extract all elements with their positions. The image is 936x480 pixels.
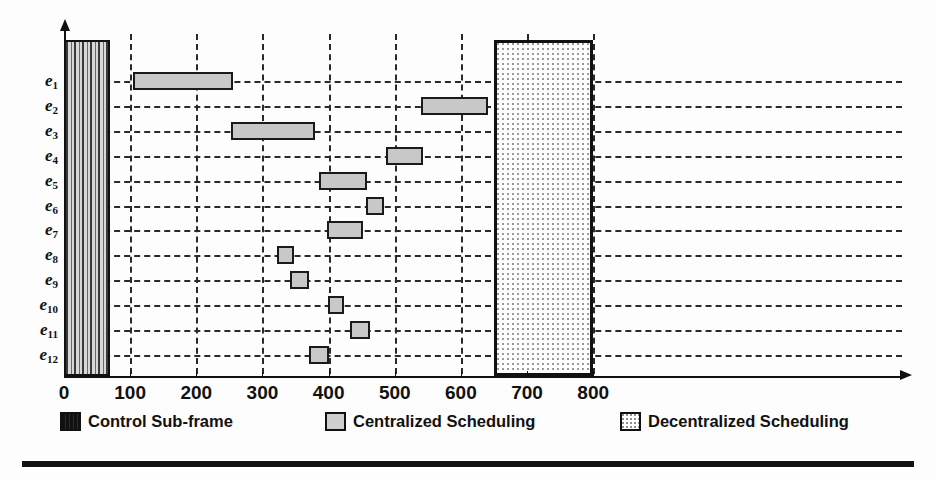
x-axis-tick-mark	[593, 371, 594, 378]
bar-e8	[277, 246, 294, 264]
x-axis-tick-mark	[461, 371, 462, 378]
x-axis-tick-label: 100	[114, 382, 146, 404]
decentralized-swatch-icon	[620, 412, 641, 431]
centralized-swatch-icon	[325, 412, 346, 431]
chart-legend: Control Sub-frameCentralized SchedulingD…	[0, 408, 936, 442]
gridline-vertical	[593, 34, 595, 374]
gridline-horizontal	[64, 131, 902, 133]
y-axis-category-label-e1: e1	[45, 71, 58, 91]
gridline-vertical	[329, 34, 331, 374]
legend-label: Centralized Scheduling	[353, 412, 535, 431]
y-axis-category-label-e11: e11	[40, 320, 58, 340]
x-axis-tick-mark	[130, 371, 131, 378]
x-axis-tick-label: 500	[379, 382, 411, 404]
x-axis-tick-label: 0	[59, 382, 70, 404]
y-axis-category-label-e2: e2	[45, 96, 58, 116]
x-axis-tick-mark	[329, 371, 330, 378]
block-control-sub-frame	[64, 40, 110, 376]
x-axis-tick-mark	[64, 371, 65, 378]
bar-e3	[231, 122, 315, 140]
bar-e7	[327, 221, 363, 239]
x-axis-tick-mark	[196, 371, 197, 378]
legend-item-centralized-scheduling: Centralized Scheduling	[325, 412, 535, 431]
legend-item-control-sub-frame: Control Sub-frame	[60, 412, 233, 431]
gridline-horizontal	[64, 206, 902, 208]
y-axis-category-label-e9: e9	[45, 270, 58, 290]
y-axis-category-label-e7: e7	[45, 220, 58, 240]
x-axis-tick-label: 300	[247, 382, 279, 404]
legend-item-decentralized-scheduling: Decentralized Scheduling	[620, 412, 849, 431]
bar-e6	[366, 197, 384, 215]
gridline-horizontal	[64, 181, 902, 183]
gridline-horizontal	[64, 156, 902, 158]
y-axis-category-label-e4: e4	[45, 146, 58, 166]
y-axis-labels: e1e2e3e4e5e6e7e8e9e10e11e12	[0, 30, 58, 378]
x-axis-tick-label: 200	[180, 382, 212, 404]
figure-container: e1e2e3e4e5e6e7e8e9e10e11e12 010020030040…	[0, 0, 936, 480]
bar-e5	[319, 172, 367, 190]
x-axis-tick-label: 400	[313, 382, 345, 404]
bottom-divider-rule	[22, 461, 914, 467]
y-axis-category-label-e5: e5	[45, 171, 58, 191]
gridline-vertical	[395, 34, 397, 374]
plot-area: 0100200300400500600700800	[64, 30, 912, 378]
x-axis-line	[64, 376, 902, 378]
bar-e1	[133, 72, 233, 90]
bar-e2	[421, 97, 488, 115]
x-axis-tick-mark	[262, 371, 263, 378]
bar-e9	[290, 271, 310, 289]
x-axis-tick-label: 600	[445, 382, 477, 404]
y-axis-arrow-icon	[60, 19, 70, 31]
bar-e11	[350, 321, 369, 339]
legend-label: Decentralized Scheduling	[648, 412, 849, 431]
y-axis-category-label-e8: e8	[45, 245, 58, 265]
y-axis-category-label-e10: e10	[39, 295, 58, 315]
x-axis-tick-label: 700	[511, 382, 543, 404]
gridline-horizontal	[64, 230, 902, 232]
x-axis-tick-mark	[527, 371, 528, 378]
gridline-horizontal	[64, 355, 902, 357]
bar-e4	[386, 147, 423, 165]
gridline-vertical	[262, 34, 264, 374]
y-axis-category-label-e12: e12	[39, 345, 58, 365]
block-decentralized-scheduling	[494, 40, 593, 376]
gridline-horizontal	[64, 330, 902, 332]
legend-label: Control Sub-frame	[88, 412, 233, 431]
bar-e10	[328, 296, 345, 314]
gridline-vertical	[130, 34, 132, 374]
y-axis-category-label-e3: e3	[45, 121, 58, 141]
gridline-horizontal	[64, 255, 902, 257]
gridline-horizontal	[64, 305, 902, 307]
x-axis-tick-mark	[395, 371, 396, 378]
x-axis-tick-label: 800	[577, 382, 609, 404]
gridline-vertical	[461, 34, 463, 374]
gridline-horizontal	[64, 280, 902, 282]
control-swatch-icon	[60, 412, 81, 431]
bar-e12	[309, 346, 329, 364]
y-axis-category-label-e6: e6	[45, 196, 58, 216]
x-axis-arrow-icon	[900, 370, 912, 380]
